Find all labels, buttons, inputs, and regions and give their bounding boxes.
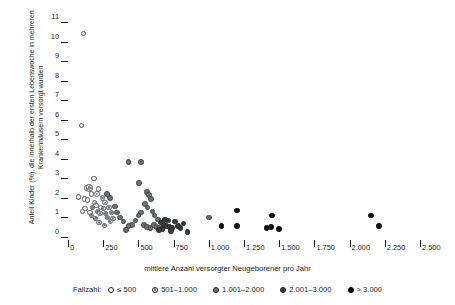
y-axis-tick: 6 <box>52 120 68 121</box>
data-point <box>141 222 147 228</box>
data-point <box>106 205 111 210</box>
y-tick-mark <box>61 178 68 179</box>
data-point <box>121 219 127 225</box>
y-axis-tick: 3 <box>52 178 68 179</box>
data-point <box>206 215 212 221</box>
data-point <box>133 218 139 224</box>
y-axis-tick: 2 <box>52 198 68 199</box>
y-tick-label: 8 <box>55 72 59 80</box>
data-point <box>97 211 102 216</box>
legend-title: Fallzahl: <box>73 285 101 294</box>
y-tick-label: 1 <box>55 208 59 216</box>
data-point <box>156 227 162 233</box>
data-point <box>100 195 105 200</box>
x-tick-mark <box>103 240 104 247</box>
data-point <box>136 180 142 186</box>
y-tick-label: 5 <box>55 130 59 138</box>
y-axis-tick: 11 <box>52 22 68 23</box>
y-tick-mark <box>61 139 68 140</box>
scatter-chart-figure: Anteil Kinder (%), die innerhalb der ers… <box>0 0 455 305</box>
data-point <box>138 210 144 216</box>
x-tick-mark <box>138 240 139 247</box>
legend-item[interactable]: 501–1.000 <box>152 285 197 294</box>
data-point <box>105 215 110 220</box>
data-point <box>148 196 154 202</box>
data-point <box>160 226 166 232</box>
data-point <box>108 219 113 224</box>
x-tick-mark <box>174 240 175 247</box>
data-point <box>234 208 240 214</box>
legend-marker-icon <box>348 287 354 293</box>
data-point <box>82 206 87 211</box>
data-point <box>126 159 132 165</box>
legend-item-label: 2.001–3.000 <box>289 285 331 294</box>
y-axis-tick: 10 <box>52 42 68 43</box>
data-point <box>129 222 135 228</box>
data-point <box>157 225 163 231</box>
y-tick-mark <box>61 61 68 62</box>
legend-item-label: 501–1.000 <box>161 285 197 294</box>
data-point <box>92 200 97 205</box>
data-point <box>126 223 132 229</box>
data-point <box>164 223 170 229</box>
y-tick-mark <box>61 217 68 218</box>
data-point <box>98 205 103 210</box>
x-tick-label: 500 <box>140 244 152 252</box>
y-axis-tick: 0 <box>52 237 68 238</box>
data-point <box>219 223 225 229</box>
y-tick-mark <box>61 81 68 82</box>
data-point <box>112 204 118 210</box>
legend-item[interactable]: > 3.000 <box>348 285 383 294</box>
legend-item-label: 1.001–2.000 <box>222 285 264 294</box>
data-point <box>268 224 274 230</box>
data-point <box>136 213 142 219</box>
data-point <box>81 31 86 36</box>
data-point <box>101 206 106 211</box>
y-tick-mark <box>61 42 68 43</box>
data-point <box>138 159 144 165</box>
x-tick-label: 2.000 <box>352 244 371 252</box>
x-tick-mark <box>420 240 421 247</box>
data-point <box>172 219 178 225</box>
legend-item[interactable]: 1.001–2.000 <box>213 285 264 294</box>
data-point <box>148 225 154 231</box>
legend-marker-icon <box>213 287 219 293</box>
y-tick-label: 3 <box>55 169 59 177</box>
data-point <box>264 225 270 231</box>
data-point <box>167 224 173 230</box>
y-axis-tick: 5 <box>52 139 68 140</box>
data-point <box>90 205 95 210</box>
data-point <box>145 205 151 211</box>
data-point <box>150 209 156 215</box>
y-tick-mark <box>61 159 68 160</box>
data-point <box>110 216 115 221</box>
data-point <box>79 123 84 128</box>
y-axis-tick: 7 <box>52 100 68 101</box>
data-point <box>102 223 107 228</box>
y-tick-mark <box>61 100 68 101</box>
x-tick-label: 750 <box>176 244 188 252</box>
x-tick-label: 1.500 <box>281 244 300 252</box>
data-point <box>123 227 129 233</box>
legend-marker-icon <box>152 287 158 293</box>
data-point <box>185 229 191 235</box>
x-tick-mark <box>68 240 69 247</box>
data-point <box>144 224 150 230</box>
data-point <box>117 215 123 221</box>
data-point <box>93 203 98 208</box>
y-axis-tick: 9 <box>52 61 68 62</box>
data-point <box>84 185 89 190</box>
data-point <box>376 223 382 229</box>
data-point <box>269 213 275 219</box>
legend-item-label: ≤ 500 <box>117 285 136 294</box>
legend-item[interactable]: ≤ 500 <box>108 285 136 294</box>
data-point <box>89 191 94 196</box>
data-point <box>154 224 160 230</box>
legend-item[interactable]: 2.001–3.000 <box>280 285 331 294</box>
data-point <box>181 221 187 227</box>
y-tick-label: 10 <box>51 33 59 41</box>
x-tick-label: 2.500 <box>422 244 441 252</box>
data-point <box>109 210 114 215</box>
y-tick-mark <box>61 198 68 199</box>
data-point <box>82 196 87 201</box>
